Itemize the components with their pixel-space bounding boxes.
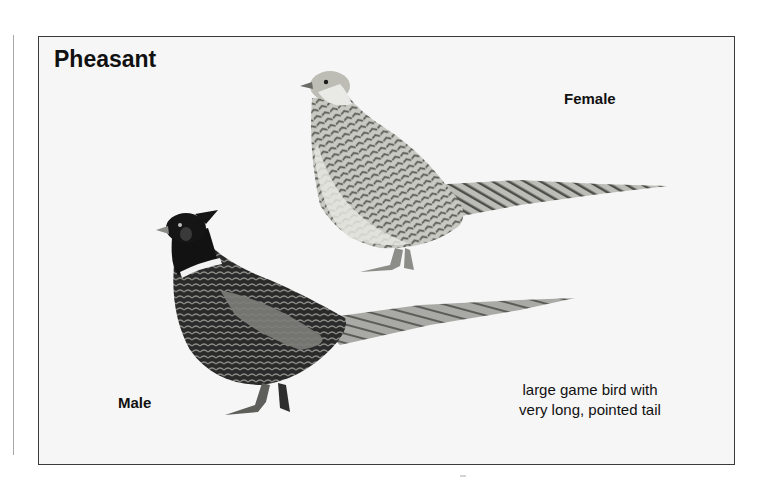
caption: large game bird with very long, pointed …	[490, 380, 690, 420]
scan-artefact	[460, 475, 466, 477]
caption-line-2: very long, pointed tail	[490, 400, 690, 420]
female-label: Female	[564, 90, 616, 107]
caption-line-1: large game bird with	[490, 380, 690, 400]
male-label: Male	[118, 394, 151, 411]
